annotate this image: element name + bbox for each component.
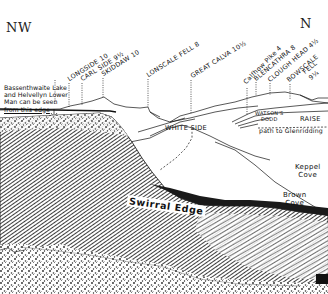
- label-keppel-cove: Keppel Cove: [295, 164, 321, 179]
- label-watsons-dodd: WATSON'S DODD: [255, 111, 284, 122]
- watsons-line-2: DODD: [255, 117, 284, 123]
- note-line-4: from this edge: [4, 106, 68, 113]
- fell-panorama: NW N Bassenthwaite Lake and Helvellyn Lo…: [0, 0, 328, 294]
- note-line-3: Man can be seen: [4, 98, 68, 105]
- note-line-2: and Helvellyn Lower: [4, 91, 68, 98]
- viewpoint-note: Bassenthwaite Lake and Helvellyn Lower M…: [4, 84, 68, 113]
- keppel-line-2: Cove: [295, 172, 321, 180]
- compass-northwest: NW: [6, 20, 32, 35]
- label-path-to-glenridding: path to Glenridding: [259, 128, 323, 134]
- label-raise: RAISE: [300, 116, 321, 123]
- label-white-side: WHITE SIDE: [165, 125, 207, 132]
- panorama-drawing: [0, 0, 328, 294]
- note-line-1: Bassenthwaite Lake: [4, 84, 68, 91]
- label-brown-cove: Brown Cove: [283, 192, 306, 207]
- compass-north: N: [300, 16, 312, 31]
- brown-line-2: Cove: [283, 200, 306, 208]
